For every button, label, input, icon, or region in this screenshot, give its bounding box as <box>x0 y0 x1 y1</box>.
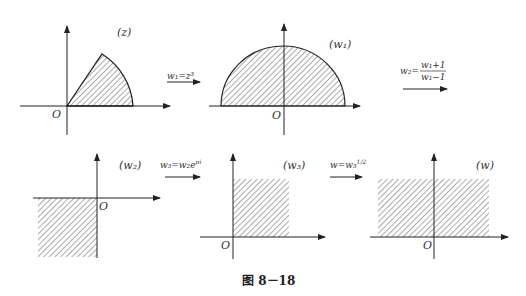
origin-label: O <box>221 239 230 252</box>
origin-label: O <box>272 109 281 122</box>
map-formula: w=w₃1/2 <box>330 158 366 170</box>
map-arrow-2: w₂= w₁+1 w₁−1 <box>400 60 447 89</box>
origin-label: O <box>99 200 108 213</box>
map-denominator: w₁−1 <box>421 72 446 82</box>
panel-label: (z) <box>117 26 131 39</box>
map-lhs: w₂= <box>400 66 419 76</box>
strip-region <box>233 179 289 237</box>
panel-w: O (w) <box>370 154 508 259</box>
panel-w3: O (w₃) <box>200 154 325 259</box>
map-arrow-4: w=w₃1/2 <box>330 158 366 177</box>
sector-region <box>67 54 133 106</box>
origin-label: O <box>423 239 432 252</box>
map-formula: w₃=w₂eπi <box>160 158 201 170</box>
map-numerator: w₁+1 <box>421 60 446 70</box>
map-arrow-3: w₃=w₂eπi <box>160 158 201 177</box>
map-arrow-1: w₁=z³ <box>167 71 200 82</box>
panel-w2: O (w₂) <box>33 154 160 258</box>
figure-caption: 图 8－18 <box>242 274 295 288</box>
panel-label: (w) <box>476 159 494 172</box>
panel-label: (w₃) <box>283 159 305 172</box>
third-quadrant-region <box>38 198 97 257</box>
panel-label: (w₂) <box>119 159 141 172</box>
panel-w1: O (w₁) <box>209 24 360 135</box>
panel-label: (w₁) <box>329 38 351 51</box>
conformal-mapping-figure: O (z) w₁=z³ O (w₁) w₂= w₁+1 w₁−1 O (w₂) … <box>0 0 526 296</box>
panel-z: O (z) <box>20 26 170 135</box>
half-disk-region <box>221 46 345 106</box>
map-formula: w₁=z³ <box>167 71 195 81</box>
origin-label: O <box>52 108 61 121</box>
